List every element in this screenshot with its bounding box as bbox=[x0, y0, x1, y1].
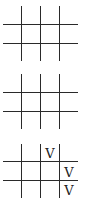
grid-1-horizontal-line-1 bbox=[3, 24, 78, 25]
grid-3-mark-r1c2: V bbox=[42, 147, 58, 161]
grid-3-mark-r3c3: V bbox=[61, 184, 77, 198]
grid-2-horizontal-line-2 bbox=[3, 111, 78, 112]
grid-1 bbox=[0, 6, 85, 62]
grid-3-vertical-line-2 bbox=[40, 144, 41, 198]
grid-1-horizontal-line-2 bbox=[3, 43, 78, 44]
grid-3-horizontal-line-2 bbox=[3, 180, 78, 181]
grid-2-vertical-line-2 bbox=[40, 74, 41, 129]
grid-2-vertical-line-3 bbox=[59, 74, 60, 129]
grid-1-vertical-line-2 bbox=[40, 6, 41, 61]
grid-2-horizontal-line-1 bbox=[3, 92, 78, 93]
grid-2 bbox=[0, 74, 85, 130]
grid-3-horizontal-line-1 bbox=[3, 161, 78, 162]
grid-3-mark-r2c3: V bbox=[61, 166, 77, 180]
grid-1-vertical-line-3 bbox=[59, 6, 60, 61]
grid-1-vertical-line-1 bbox=[21, 6, 22, 61]
grid-3: V V V bbox=[0, 144, 85, 200]
grid-2-vertical-line-1 bbox=[21, 74, 22, 129]
grid-3-vertical-line-3 bbox=[59, 144, 60, 198]
grid-3-vertical-line-1 bbox=[21, 144, 22, 198]
